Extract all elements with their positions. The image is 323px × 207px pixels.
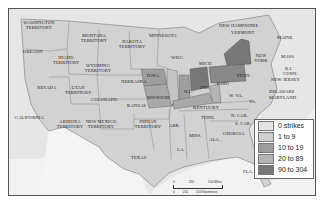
legend-item: 0 strikes (258, 120, 313, 131)
label-new-hampshire: New Hampshire (219, 23, 258, 28)
label-minnesota: Minnesota (149, 33, 177, 38)
label-kentucky: Kentucky (193, 105, 219, 110)
map-legend: 0 strikes 1 to 9 10 to 19 20 to 89 90 to… (254, 119, 314, 179)
label-n-car: N. Car. (231, 113, 248, 118)
label-ind: Ind. (200, 85, 210, 90)
legend-item: 1 to 9 (258, 131, 313, 142)
label-indian: Indian Territory (133, 119, 163, 129)
label-penn: Penn. (237, 73, 251, 78)
label-ohio: Ohio (217, 81, 229, 86)
label-idaho: Idaho Territory (53, 55, 79, 65)
label-delaware: Delaware (269, 89, 295, 94)
label-vermont: Vermont (231, 30, 254, 35)
label-utah: Utah Territory (65, 85, 91, 95)
legend-label: 0 strikes (278, 122, 304, 129)
legend-swatch (258, 121, 274, 131)
legend-item: 90 to 304 (258, 164, 313, 175)
label-new-jersey: New Jersey (271, 77, 300, 82)
label-montana: Montana Territory (77, 33, 111, 43)
legend-swatch (258, 143, 274, 153)
label-la: La. (177, 147, 185, 152)
label-arizona: Arizona Territory (55, 119, 85, 129)
label-s-car: S. Car. (235, 121, 251, 126)
legend-swatch (258, 154, 274, 164)
label-nebraska: Nebraska (121, 79, 147, 84)
scale-km-500: 500 Kilometers (196, 190, 217, 194)
legend-item: 20 to 89 (258, 153, 313, 164)
label-w-va: W. Va. (229, 93, 243, 98)
label-mich: Mich. (199, 61, 213, 66)
label-wisc: Wisc. (171, 55, 184, 60)
label-fla: Fla. (243, 169, 253, 174)
scale-miles-500: 500 Miles (208, 180, 222, 184)
legend-label: 10 to 19 (278, 144, 303, 151)
legend-swatch (258, 132, 274, 142)
label-missouri: Missouri (147, 95, 170, 100)
legend-label: 1 to 9 (278, 133, 296, 140)
label-tenn: Tenn. (201, 115, 215, 120)
label-miss: Miss. (189, 133, 201, 138)
label-ala: Ala. (209, 137, 220, 142)
scale-km-0: 0 (173, 190, 175, 194)
label-maine: Maine (277, 35, 293, 40)
label-texas: Texas (131, 155, 146, 160)
label-kansas: Kansas (127, 103, 146, 108)
legend-swatch (258, 165, 274, 175)
label-ark: Ark. (169, 123, 180, 128)
label-oregon: Oregon (23, 49, 43, 54)
label-california: California (15, 115, 44, 120)
label-maryland: Maryland (269, 95, 296, 100)
label-va: Va. (249, 99, 257, 104)
label-mass: Mass. (281, 54, 295, 59)
label-washington: Washington Territory (19, 20, 59, 30)
label-dakota: Dakota Territory (117, 39, 147, 49)
legend-label: 90 to 304 (278, 166, 307, 173)
scale-miles-0: 0 (173, 180, 175, 184)
label-new-mexico: New Mexico Territory (85, 119, 117, 129)
legend-label: 20 to 89 (278, 155, 303, 162)
label-conn: Conn. (283, 71, 298, 76)
scale-km-250: 250 (183, 190, 188, 194)
label-nevada: Nevada (37, 85, 56, 90)
label-new-york: New York (252, 53, 270, 63)
label-colorado: Colorado (91, 97, 117, 102)
scale-miles-250: 250 (189, 180, 194, 184)
label-georgia: Georgia (223, 131, 244, 136)
legend-item: 10 to 19 (258, 142, 313, 153)
label-iowa: Iowa (147, 73, 159, 78)
label-ill: Ill. (184, 89, 193, 94)
scale-bar: 0 250 500 Miles 0 250 500 Kilometers (173, 180, 223, 194)
label-wyoming: Wyoming Territory (81, 63, 115, 73)
